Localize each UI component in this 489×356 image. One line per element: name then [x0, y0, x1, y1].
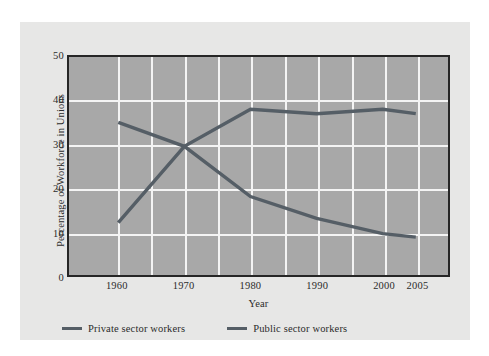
series-line	[118, 109, 416, 222]
x-axis-tick-label: 2005	[407, 280, 429, 291]
legend-entry-private-sector-workers: Private sector workers	[62, 323, 185, 334]
chart-figure: Percentage of Workforce in Unions 010203…	[20, 22, 470, 340]
y-axis-tick-label: 30	[53, 138, 64, 149]
x-axis-tick-label: 1990	[306, 280, 328, 291]
legend-swatch-icon	[62, 327, 82, 330]
y-axis-tick-label: 50	[53, 50, 64, 61]
x-axis-tick-label: 1980	[240, 280, 262, 291]
x-axis-tick-label: 2000	[373, 280, 395, 291]
legend-swatch-icon	[227, 327, 247, 330]
plot-area	[67, 55, 450, 277]
y-axis-tick-label: 40	[53, 94, 64, 105]
series-lines	[69, 57, 448, 275]
legend-label: Public sector workers	[253, 323, 347, 334]
legend-label: Private sector workers	[88, 323, 185, 334]
x-axis-tick-label: 1970	[173, 280, 195, 291]
plot-inner	[69, 57, 448, 275]
x-axis-tick-labels: 196019701980199020002005	[67, 280, 450, 296]
y-axis-tick-label: 0	[59, 272, 64, 283]
y-axis-tick-label: 20	[53, 183, 64, 194]
y-axis-tick-labels: 01020304050	[40, 55, 64, 277]
legend-entry-public-sector-workers: Public sector workers	[227, 323, 347, 334]
x-axis-title: Year	[67, 298, 450, 309]
series-line	[118, 122, 416, 237]
x-axis-tick-label: 1960	[106, 280, 128, 291]
y-axis-tick-label: 10	[53, 227, 64, 238]
chart-legend: Private sector workers Public sector wor…	[60, 320, 430, 336]
